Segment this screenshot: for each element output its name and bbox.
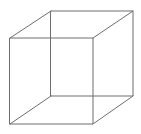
cube-edge-bottom-left <box>10 96 51 124</box>
cube-edge-bottom-right <box>93 96 133 124</box>
wireframe-cube-drawing <box>0 0 141 134</box>
cube-edge-top-left <box>10 11 51 38</box>
figure-canvas <box>0 0 141 134</box>
cube-back-face <box>51 11 133 96</box>
cube-edge-top-right <box>93 11 133 38</box>
